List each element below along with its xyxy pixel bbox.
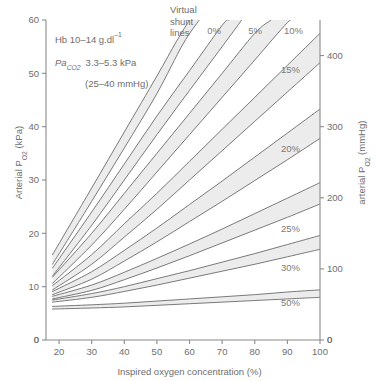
shunt-percent-label-0pct: 0% [207,25,221,36]
right-axis-title-sub: O [364,161,371,166]
right-tick-label: 400 [327,50,343,61]
left-axis-title-sub: O [21,155,28,160]
callout-line-1: Virtual [170,4,197,16]
left-tick-label: 50 [28,68,39,79]
shunt-percent-label-50pct: 50% [281,297,301,308]
left-axis-zero-label: 0 [34,334,39,345]
bottom-axis-title-text: Inspired oxygen concentration (%) [117,366,261,377]
left-tick-label: 40 [28,121,39,132]
right-tick-label: 300 [327,121,343,132]
shunt-percent-label-30pct: 30% [281,262,301,273]
left-axis-title-sub2: 2 [21,151,28,155]
note-spacer [55,46,148,54]
hb-note: Hb 10–14 g.dl–1 [55,28,148,46]
paco2-value: 3.3–5.3 kPa [86,57,137,68]
left-tick-label: 10 [28,281,39,292]
left-tick-label: 60 [28,14,39,25]
right-tick-label: 100 [327,263,343,274]
bottom-tick-label: 90 [282,346,293,357]
left-axis-title: Arterial PO2 (kPa) [8,98,27,228]
hb-note-text: Hb 10–14 g.dl [55,34,114,45]
bottom-tick-label: 80 [249,346,260,357]
bottom-tick-label: 100 [312,346,328,357]
paco2-mmhg: (25–40 mmHg) [85,78,148,89]
hb-note-exponent: –1 [114,31,122,38]
bottom-tick-label: 40 [119,346,130,357]
left-tick-label: 30 [28,174,39,185]
shunt-percent-label-15pct: 15% [281,64,301,75]
callout-line-3: lines [170,27,197,39]
conditions-note: Hb 10–14 g.dl–1 PaCO23.3–5.3 kPa (25–40 … [55,28,148,90]
paco2-mmhg-line: (25–40 mmHg) [85,75,148,90]
right-tick-label: 200 [327,192,343,203]
virtual-shunt-lines-callout: Virtual shunt lines [170,4,197,39]
bottom-tick-label: 60 [184,346,195,357]
paco2-subscript-2: 2 [77,65,81,72]
right-axis-zero-label: 0 [327,334,332,345]
paco2-symbol: Pa [55,57,67,68]
callout-line-2: shunt [170,16,197,28]
right-axis-title-sub2: 2 [364,158,371,162]
bottom-tick-label: 50 [152,346,163,357]
right-axis-title-unit: (mmHg) [356,121,367,158]
bottom-tick-label: 30 [86,346,97,357]
shunt-percent-label-10pct: 10% [284,25,304,36]
left-axis-title-unit: (kPa) [13,126,24,151]
bottom-axis-title: Inspired oxygen concentration (%) [0,361,379,379]
iso-shunt-diagram: 0102030405060010020030040020304050607080… [0,0,379,381]
paco2-note: PaCO23.3–5.3 kPa [55,54,148,74]
bottom-tick-label: 20 [54,346,65,357]
left-tick-label: 20 [28,228,39,239]
left-axis-title-main: Arterial P [13,160,24,199]
shunt-percent-label-25pct: 25% [281,223,301,234]
paco2-subscript: CO [67,65,77,72]
shunt-percent-label-5pct: 5% [248,25,262,36]
right-axis-title-main: arterial P [356,167,367,205]
shunt-percent-label-20pct: 20% [281,143,301,154]
bottom-tick-label: 70 [217,346,228,357]
right-axis-title: arterial PO2 (mmHg) [351,98,370,228]
